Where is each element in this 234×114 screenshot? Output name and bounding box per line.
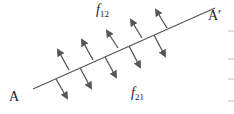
arrow-down-icon bbox=[105, 57, 116, 77]
cropped-text-fragment bbox=[228, 78, 234, 80]
arrow-down-icon bbox=[154, 35, 165, 56]
f21-label: f21 bbox=[131, 86, 144, 104]
arrow-down-icon bbox=[56, 79, 67, 98]
arrow-down-icon bbox=[80, 68, 91, 88]
arrow-up-icon bbox=[58, 50, 69, 70]
f12-arrows bbox=[58, 10, 167, 70]
f12-label: f12 bbox=[96, 3, 109, 21]
cropped-text-fragment bbox=[228, 58, 234, 60]
f21-arrows bbox=[56, 35, 165, 98]
arrow-up-icon bbox=[131, 20, 142, 38]
arrow-down-icon bbox=[129, 46, 140, 67]
arrow-up-icon bbox=[156, 10, 167, 28]
arrow-up-icon bbox=[107, 31, 118, 48]
cropped-text-fragment bbox=[228, 30, 234, 32]
line-a-a-prime bbox=[33, 8, 215, 89]
arrow-up-icon bbox=[82, 40, 93, 60]
point-a-label: A bbox=[9, 90, 19, 104]
cropped-text-fragment bbox=[228, 100, 234, 102]
f12-subscript: 12 bbox=[100, 9, 109, 19]
force-diagram: A A′ f12 f21 bbox=[0, 0, 234, 114]
diagram-canvas bbox=[0, 0, 234, 114]
f21-subscript: 21 bbox=[135, 92, 144, 102]
point-a-prime-label: A′ bbox=[208, 9, 221, 23]
